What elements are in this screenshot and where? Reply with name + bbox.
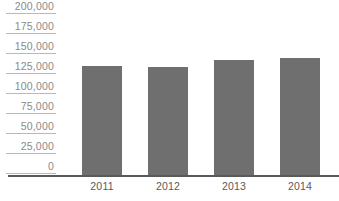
y-axis-tick-label: 175,000 xyxy=(15,21,54,32)
y-axis-tick-label: 150,000 xyxy=(15,41,54,52)
x-axis-tick-label-2011: 2011 xyxy=(72,180,132,193)
y-axis-tick-label: 50,000 xyxy=(21,121,54,132)
bar-2012[interactable] xyxy=(148,67,188,175)
x-axis-line xyxy=(8,175,339,177)
y-axis-tick-label: 75,000 xyxy=(21,101,54,112)
y-axis-tick-label: 100,000 xyxy=(15,81,54,92)
y-gridline xyxy=(6,73,56,74)
y-axis-tick-label: 125,000 xyxy=(15,61,54,72)
y-axis-tick-label: 25,000 xyxy=(21,141,54,152)
y-gridline xyxy=(6,133,56,134)
y-gridline xyxy=(6,13,56,14)
x-axis-tick-label-2014: 2014 xyxy=(270,180,330,193)
y-gridline xyxy=(6,113,56,114)
y-gridline xyxy=(6,33,56,34)
bar-2011[interactable] xyxy=(82,66,122,175)
plot-area: 2011 2012 2013 2014 xyxy=(64,0,339,201)
x-axis-tick-label-2013: 2013 xyxy=(204,180,264,193)
bar-chart: 200,000 175,000 150,000 125,000 100,000 … xyxy=(0,0,339,201)
bar-2013[interactable] xyxy=(214,60,254,175)
y-gridline xyxy=(6,153,56,154)
y-axis: 200,000 175,000 150,000 125,000 100,000 … xyxy=(0,0,64,201)
y-gridline xyxy=(6,173,56,174)
bar-2014[interactable] xyxy=(280,58,320,175)
y-axis-tick-label: 0 xyxy=(48,161,54,172)
y-axis-tick-label: 200,000 xyxy=(15,1,54,12)
bar-series xyxy=(64,0,339,201)
y-gridline xyxy=(6,53,56,54)
y-gridline xyxy=(6,93,56,94)
x-axis-tick-label-2012: 2012 xyxy=(138,180,198,193)
